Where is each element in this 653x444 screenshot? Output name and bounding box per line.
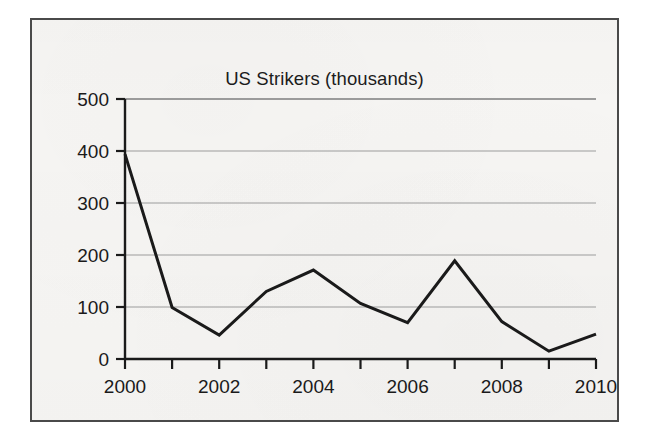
y-axis-label-500: 500 (77, 89, 109, 110)
y-axis-label-400: 400 (77, 141, 109, 162)
x-axis-label-2004: 2004 (292, 376, 335, 397)
figure-frame: US Strikers (thousands) 0100200300400500… (30, 18, 619, 422)
y-axis-label-100: 100 (77, 297, 109, 318)
line-chart-plot: 0100200300400500 20002002200420062008201… (32, 20, 617, 420)
x-axis-label-2010: 2010 (575, 376, 617, 397)
x-axis-label-2008: 2008 (481, 376, 523, 397)
x-axis-label-2002: 2002 (198, 376, 240, 397)
y-tick-marks-group (116, 99, 125, 359)
x-tick-marks-group (125, 359, 596, 369)
x-axis-label-2000: 2000 (104, 376, 146, 397)
data-series-line (125, 154, 596, 351)
y-axis-tick-labels-group: 0100200300400500 (77, 89, 109, 370)
x-axis-tick-labels-group: 200020022004200620082010 (104, 376, 617, 397)
x-axis-label-2006: 2006 (386, 376, 428, 397)
y-axis-label-300: 300 (77, 193, 109, 214)
y-axis-label-200: 200 (77, 245, 109, 266)
y-axis-label-0: 0 (98, 349, 109, 370)
gridlines-group (125, 99, 596, 307)
